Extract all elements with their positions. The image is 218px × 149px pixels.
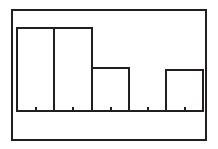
histogram-bar xyxy=(54,28,92,111)
histogram-bar xyxy=(17,28,54,111)
chart-canvas xyxy=(0,0,218,149)
histogram-bar xyxy=(92,68,129,111)
histogram-figure xyxy=(0,0,218,149)
histogram-bar xyxy=(166,70,203,111)
